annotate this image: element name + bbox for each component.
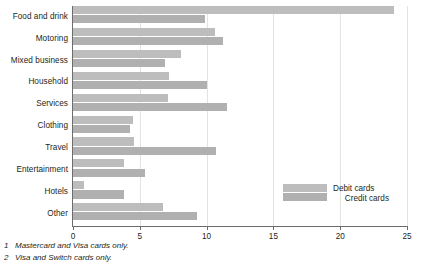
bar-entertainment-debit-cards [73,159,124,167]
x-tick [140,227,141,230]
y-axis-line [72,6,73,226]
bar-hotels-debit-cards [73,181,84,189]
bar-household-credit-cards [73,81,207,89]
x-tick-label: 20 [320,232,360,242]
footnote-2-text: Visa and Switch cards only. [15,253,112,262]
x-tick [407,227,408,230]
legend-label-credit-cards: Credit cards [345,194,389,204]
bar-other-credit-cards [73,212,197,220]
category-label: Services [0,99,68,109]
x-axis-line [72,226,408,227]
gridline [407,6,408,226]
bar-motoring-debit-cards [73,28,215,36]
category-label-wrap: Hotels [0,187,68,197]
bar-household-debit-cards [73,72,169,80]
x-tick [273,227,274,230]
x-tick [340,227,341,230]
bar-hotels-credit-cards [73,190,124,198]
bar-clothing-credit-cards [73,125,130,133]
legend-swatch-debit-cards [283,184,327,192]
category-label-wrap: Travel [0,143,68,153]
category-label: Household [0,77,68,87]
bar-services-debit-cards [73,94,168,102]
category-label-wrap: Motoring [0,34,68,44]
bar-travel-credit-cards [73,147,216,155]
bar-food-and-drink-credit-cards [73,15,205,23]
footnote-1: 1Mastercard and Visa cards only. [4,240,304,252]
x-tick [73,227,74,230]
bar-food-and-drink-debit-cards [73,6,394,14]
footnote-1-number: 1 [4,240,15,252]
footnote-2-number: 2 [4,252,15,264]
bar-services-credit-cards [73,103,227,111]
category-label: Travel [0,143,68,153]
bar-mixed-business-credit-cards [73,59,165,67]
category-label-wrap: Entertainment [0,165,68,175]
x-tick [207,227,208,230]
footnote-2: 2Visa and Switch cards only. [4,252,304,264]
category-label-wrap: Services [0,99,68,109]
legend-label-debit-cards: Debit cards [333,184,374,194]
x-tick-label: 25 [387,232,421,242]
category-label-wrap: Household [0,77,68,87]
category-label-wrap: Food and drink [0,12,68,22]
plot-area: Food and drinkMotoringMixed businessHous… [0,0,421,236]
category-label: Motoring [0,34,68,44]
category-label: Mixed business [0,56,68,66]
gridline [273,6,274,226]
bar-mixed-business-debit-cards [73,50,181,58]
category-label-wrap: Mixed business [0,56,68,66]
bar-entertainment-credit-cards [73,169,145,177]
bar-motoring-credit-cards [73,37,223,45]
bar-travel-debit-cards [73,137,134,145]
category-label-wrap: Other [0,209,68,219]
category-label: Hotels [0,187,68,197]
category-label: Entertainment [0,165,68,175]
category-label: Other [0,209,68,219]
legend-swatch-credit-cards [283,193,327,201]
footnotes: 1Mastercard and Visa cards only. 2Visa a… [4,240,304,263]
bar-other-debit-cards [73,203,163,211]
category-label-wrap: Clothing [0,121,68,131]
category-label: Food and drink [0,12,68,22]
footnote-1-text: Mastercard and Visa cards only. [15,241,129,250]
bar-clothing-debit-cards [73,116,133,124]
category-label: Clothing [0,121,68,131]
bar-chart: Food and drinkMotoringMixed businessHous… [0,0,421,269]
